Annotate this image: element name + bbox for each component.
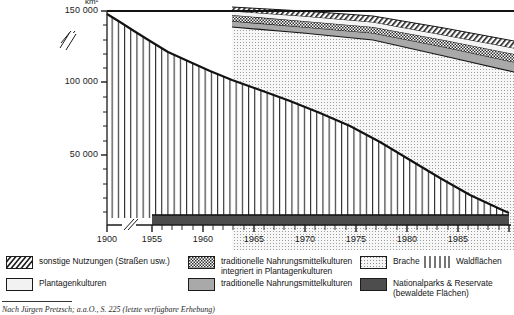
- legend-label-nationalparks-line2: (bewaldete Flächen): [393, 289, 493, 299]
- legend-item-plantagenkulturen: Plantagenkulturen: [6, 278, 186, 291]
- figure-footnote: Nach Jürgen Pretzsch; a.a.O., S. 225 (le…: [2, 305, 302, 314]
- legend-label-waldflaechen: Waldflächen: [456, 256, 502, 267]
- y-axis: [101, 11, 107, 225]
- legend-label-traditionelle: traditionelle Nahrungsmittelkulturen: [221, 278, 352, 289]
- x-tick-label-1970: 1970: [285, 234, 325, 244]
- legend-swatch-solid-dark: [360, 278, 387, 291]
- y-tick-label-50000: 50 000: [0, 149, 98, 159]
- legend-label-brache: Brache: [393, 256, 420, 267]
- y-tick-label-150000: 150 000: [0, 5, 98, 15]
- figure-root: km² 150 000 100 000 50 000 1900 1955 196…: [0, 0, 514, 315]
- y-tick-label-100000: 100 000: [0, 76, 98, 86]
- legend-label-plantagenkulturen: Plantagenkulturen: [39, 278, 107, 289]
- x-tick-label-1975: 1975: [336, 234, 376, 244]
- x-tick-label-1980: 1980: [387, 234, 427, 244]
- x-tick-label-1965: 1965: [234, 234, 274, 244]
- legend-swatch-solid-light: [6, 278, 33, 291]
- axis-break-x: [122, 219, 138, 231]
- x-tick-label-1900: 1900: [87, 234, 127, 244]
- legend-item-sonstige-nutzungen: sonstige Nutzungen (Straßen usw.): [6, 256, 186, 269]
- legend-swatch-cross-dots: [188, 256, 215, 269]
- legend-item-waldflaechen: Waldflächen: [424, 256, 502, 269]
- x-tick-label-1985: 1985: [438, 234, 478, 244]
- x-tick-label-1955: 1955: [132, 234, 172, 244]
- legend-label-sonstige-nutzungen: sonstige Nutzungen (Straßen usw.): [39, 256, 170, 267]
- x-tick-label-1960: 1960: [183, 234, 223, 244]
- legend-label-traditionelle-integriert-line2: integriert in Plantagenkulturen: [221, 267, 352, 277]
- legend-swatch-solid-gray: [188, 278, 215, 291]
- legend-item-traditionelle-integriert: traditionelle Nahrungsmittelkulturen int…: [188, 256, 363, 276]
- legend-swatch-vertical-lines: [424, 256, 450, 269]
- band-nationalparks: [152, 214, 509, 225]
- curve-break-marker: [56, 28, 82, 52]
- legend-item-brache: Brache: [360, 256, 420, 269]
- chart-legend: sonstige Nutzungen (Straßen usw.): [0, 252, 514, 298]
- legend-swatch-fine-dots: [360, 256, 387, 269]
- legend-item-nationalparks: Nationalparks & Reservate (bewaldete Flä…: [360, 278, 493, 298]
- legend-swatch-diagonal-hatch: [6, 256, 33, 269]
- footnote-rule: [2, 301, 72, 302]
- chart-plot-area: km² 150 000 100 000 50 000 1900 1955 196…: [0, 0, 514, 250]
- legend-item-traditionelle: traditionelle Nahrungsmittelkulturen: [188, 278, 363, 291]
